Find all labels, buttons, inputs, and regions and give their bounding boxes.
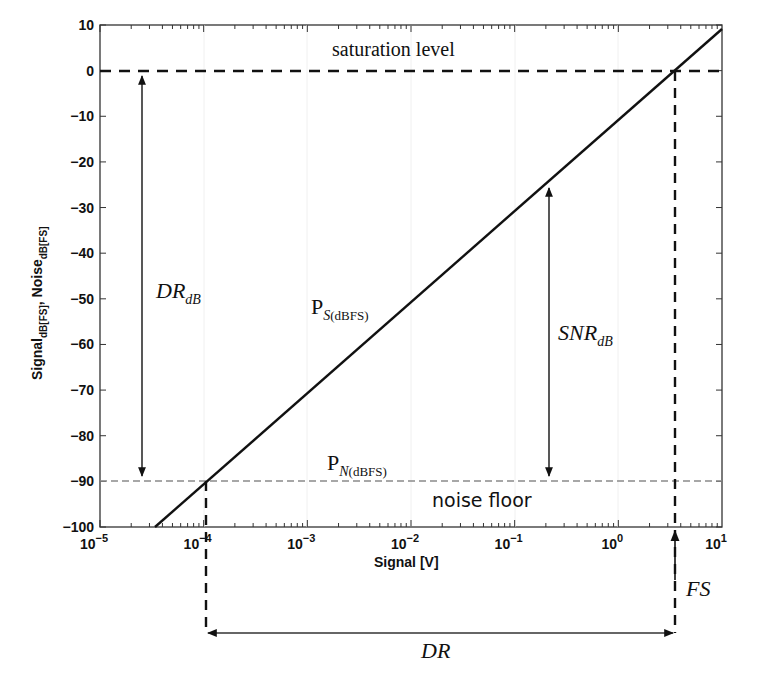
x-tick-label: 10−4 (184, 532, 213, 552)
x-tick-label: 10−5 (80, 532, 108, 552)
ps-label: PS(dBFS) (311, 294, 369, 323)
dr-label: DR (420, 638, 451, 663)
dynamic-range-chart: 100−10−20−30−40−50−60−70−80−90−100 10−51… (0, 0, 759, 678)
y-tick-label: −30 (70, 200, 94, 216)
y-tick-label: −20 (70, 154, 94, 170)
y-tick-label: −70 (70, 382, 94, 398)
y-tick-label: −10 (70, 108, 94, 124)
snr-db-label: SNRdB (558, 320, 613, 349)
y-tick-label: 0 (86, 63, 94, 79)
y-tick-label: −60 (70, 336, 94, 352)
dr-db-label: DRdB (155, 278, 201, 307)
y-axis-tick-labels: 100−10−20−30−40−50−60−70−80−90−100 (62, 17, 94, 535)
y-tick-label: −80 (70, 428, 94, 444)
x-tick-label: 10−3 (287, 532, 315, 552)
x-axis-label: Signal [V] (374, 554, 439, 570)
y-tick-label: −100 (62, 519, 94, 535)
signal-power-line (155, 29, 722, 527)
x-tick-label: 10−1 (495, 532, 523, 552)
y-tick-label: −50 (70, 291, 94, 307)
y-tick-label: 10 (78, 17, 94, 33)
x-tick-label: 101 (705, 532, 727, 552)
y-axis-label: SignaldB[FS], NoisedB[FS] (29, 227, 49, 380)
fs-label: FS (685, 576, 710, 601)
y-tick-label: −40 (70, 245, 94, 261)
saturation-level-label: saturation level (332, 38, 455, 60)
noise-floor-label: noise floor (432, 489, 532, 511)
x-axis-ticks (100, 25, 717, 527)
x-tick-label: 10−2 (391, 532, 419, 552)
x-axis-tick-labels: 10−510−410−310−210−1100101 (80, 532, 727, 552)
minor-gridlines (204, 25, 618, 527)
y-tick-label: −90 (70, 473, 94, 489)
x-tick-label: 100 (601, 532, 623, 552)
pn-label: PN(dBFS) (327, 450, 387, 479)
